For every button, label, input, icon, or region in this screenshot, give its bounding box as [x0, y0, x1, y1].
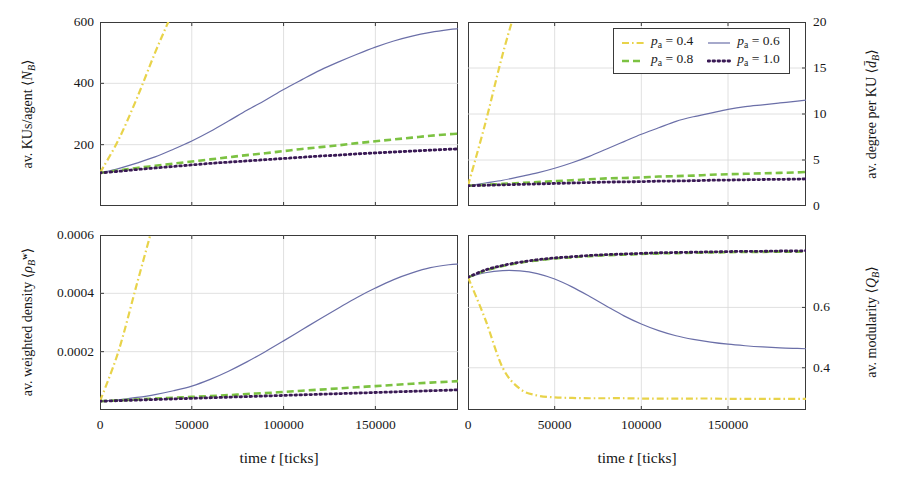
y-tick-label: 0.6 [813, 301, 873, 315]
x-tick-label: 150000 [708, 418, 749, 432]
ylabel-text-prefix: av. KUs/agent [20, 86, 35, 169]
data-series-line [468, 22, 520, 186]
y-tick-label: 200 [34, 138, 94, 152]
legend-swatch-dotted-icon [707, 55, 731, 65]
legend: pa = 0.4pa = 0.6pa = 0.8pa = 1.0 [613, 28, 790, 74]
xlabel-prefix: time [597, 449, 628, 466]
x-tick-label: 100000 [621, 418, 662, 432]
ylabel-math: ⟨NB⟩ [20, 59, 35, 85]
legend-swatch-dashed-icon [621, 55, 645, 65]
legend-swatch-solid-icon [707, 37, 731, 47]
panel-top-left [100, 22, 458, 206]
y-tick-label: 0.4 [813, 361, 873, 375]
y-tick-label: 15 [813, 61, 873, 75]
legend-label: pa = 0.8 [651, 52, 693, 67]
ylabel-var: Q [864, 278, 879, 288]
ylabel-math: ⟨QB⟩ [864, 266, 879, 293]
xlabel-suffix: [ticks] [275, 449, 318, 466]
legend-label: pa = 0.4 [651, 34, 693, 49]
data-series-line [100, 264, 458, 401]
ylabel-bottom-left: av. weighted density ⟨ρBw⟩ [19, 248, 37, 397]
plot-area-top-left [100, 22, 458, 206]
x-tick-label: 0 [97, 418, 104, 432]
x-tick-label: 50000 [538, 418, 572, 432]
panel-bottom-right [468, 235, 806, 410]
ylabel-sub: B [26, 65, 37, 71]
y-tick-label: 20 [813, 15, 873, 29]
data-series-line [468, 277, 806, 399]
data-series-line [100, 134, 458, 173]
legend-entry: pa = 0.8 [621, 52, 693, 67]
x-tick-label: 0 [465, 418, 472, 432]
xlabel-right: time t [ticks] [597, 449, 676, 467]
plot-area-bottom-left [100, 235, 458, 410]
legend-entry: pa = 1.0 [707, 52, 779, 67]
ylabel-sub: B [870, 272, 881, 278]
legend-swatch-dashdot-icon [621, 37, 645, 47]
data-series-line [468, 251, 806, 278]
y-tick-label: 600 [34, 15, 94, 29]
x-tick-label: 100000 [263, 418, 304, 432]
y-tick-label: 0 [813, 199, 873, 213]
panel-bottom-left [100, 235, 458, 410]
xlabel-left: time t [ticks] [239, 449, 318, 467]
y-tick-label: 0.0006 [34, 228, 94, 242]
xlabel-suffix: [ticks] [633, 449, 676, 466]
figure-root: av. KUs/agent ⟨NB⟩ av. degree per KU ⟨d̄… [0, 0, 901, 487]
xlabel-prefix: time [239, 449, 270, 466]
ylabel-text-prefix: av. weighted density [20, 278, 35, 396]
ylabel-var: ρ [20, 266, 35, 273]
y-tick-label: 0.0002 [34, 345, 94, 359]
y-tick-label: 0.0004 [34, 287, 94, 301]
y-tick-label: 10 [813, 107, 873, 121]
legend-entry: pa = 0.4 [621, 34, 693, 49]
plot-area-bottom-right [468, 235, 806, 410]
legend-entry: pa = 0.6 [707, 34, 779, 49]
data-series-line [100, 22, 192, 173]
legend-label: pa = 1.0 [737, 52, 779, 67]
x-tick-label: 50000 [175, 418, 209, 432]
ylabel-sub: B [870, 55, 881, 61]
data-series-line [468, 270, 806, 348]
y-tick-label: 400 [34, 77, 94, 91]
y-tick-label: 5 [813, 153, 873, 167]
ylabel-var: N [20, 71, 35, 80]
data-series-line [100, 235, 155, 401]
ylabel-sup: w [19, 253, 29, 260]
ylabel-math: ⟨ρBw⟩ [20, 248, 35, 279]
data-series-line [468, 251, 806, 277]
ylabel-sub: B [26, 260, 37, 266]
legend-label: pa = 0.6 [737, 34, 779, 49]
x-tick-label: 150000 [355, 418, 396, 432]
